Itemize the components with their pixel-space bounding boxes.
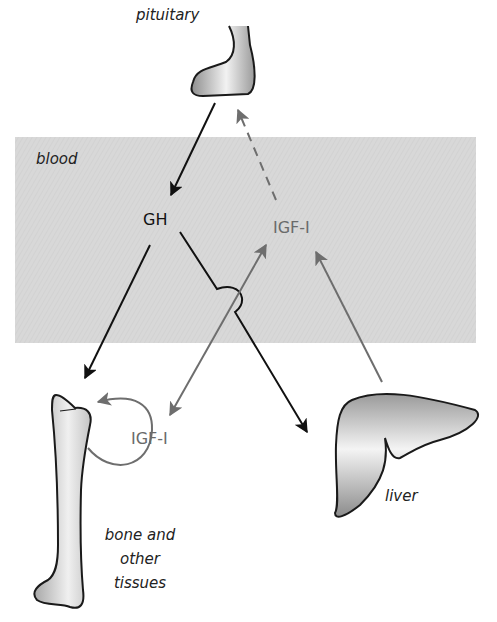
bone-label-line2: other: [100, 547, 180, 571]
gh-label: GH: [143, 210, 167, 229]
igf-local-label: IGF-I: [131, 429, 168, 448]
blood-label: blood: [36, 150, 78, 168]
diagram-canvas: [0, 0, 497, 622]
gh-igf-diagram: pituitary blood GH IGF-I IGF-I liver bon…: [0, 0, 497, 622]
liver-label: liver: [385, 487, 418, 505]
pituitary-label: pituitary: [136, 6, 199, 24]
blood-region: [15, 137, 476, 343]
igf-blood-label: IGF-I: [273, 218, 310, 237]
bone-label-line3: tissues: [100, 571, 180, 595]
pituitary-shape: [191, 26, 254, 96]
bone-label: bone and other tissues: [100, 523, 180, 595]
bone-shape: [34, 395, 90, 608]
bone-label-line1: bone and: [100, 523, 180, 547]
